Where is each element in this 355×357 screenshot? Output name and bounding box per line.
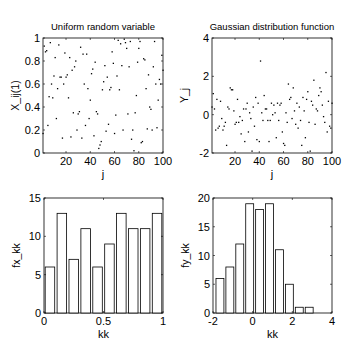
data-point — [92, 68, 93, 69]
data-point — [67, 74, 68, 75]
x-tick-label: 100 — [154, 155, 172, 167]
data-point — [98, 148, 99, 149]
y-tick-label: 1 — [34, 32, 40, 44]
data-point — [297, 127, 298, 128]
data-point — [63, 83, 64, 84]
data-point — [270, 120, 271, 121]
y-axis-label: fy_kk — [179, 243, 191, 268]
histogram-bar — [81, 229, 91, 313]
data-point — [145, 88, 146, 89]
histogram-bar — [305, 307, 313, 313]
histogram-bar — [45, 267, 55, 313]
data-point — [69, 57, 70, 58]
data-point — [132, 129, 133, 130]
histogram-bar — [236, 244, 244, 313]
figure-canvas: 2040608010000.20.40.60.81Uniform random … — [0, 0, 355, 357]
data-point — [237, 99, 238, 100]
data-point — [148, 74, 149, 75]
data-point — [126, 48, 127, 49]
data-point — [248, 131, 249, 132]
data-point — [84, 83, 85, 84]
data-point — [238, 122, 239, 123]
data-point — [304, 110, 305, 111]
data-point — [271, 103, 272, 104]
data-point — [124, 39, 125, 40]
data-point — [276, 137, 277, 138]
data-point — [86, 54, 87, 55]
data-point — [119, 89, 120, 90]
data-point — [46, 50, 47, 51]
data-point — [93, 135, 94, 136]
data-point — [312, 104, 313, 105]
y-tick-label: 0 — [204, 307, 210, 319]
data-point — [265, 108, 266, 109]
data-point — [216, 99, 217, 100]
data-point — [305, 137, 306, 138]
data-point — [142, 141, 143, 142]
x-tick-label: 80 — [133, 155, 145, 167]
histogram-bar — [246, 204, 254, 313]
x-axis-label: j — [270, 168, 273, 180]
data-point — [291, 118, 292, 119]
x-axis-label: j — [101, 168, 104, 180]
data-point — [243, 108, 244, 109]
y-axis-label: fx_kk — [10, 243, 22, 268]
data-point — [294, 110, 295, 111]
y-tick-label: 0.6 — [25, 78, 40, 90]
data-point — [74, 66, 75, 67]
data-point — [256, 139, 257, 140]
y-tick-label: 20 — [198, 192, 210, 204]
data-point — [308, 122, 309, 123]
x-axis-label: kk — [98, 328, 110, 340]
data-point — [128, 66, 129, 67]
data-point — [217, 127, 218, 128]
data-point — [65, 77, 66, 78]
data-point — [211, 106, 212, 107]
histogram-bar — [93, 267, 103, 313]
data-point — [115, 114, 116, 115]
data-point — [153, 66, 154, 67]
data-point — [266, 108, 267, 109]
data-point — [154, 41, 155, 42]
data-point — [250, 118, 251, 119]
data-point — [105, 131, 106, 132]
data-point — [314, 124, 315, 125]
x-tick-label: 2 — [289, 315, 295, 327]
data-point — [99, 144, 100, 145]
data-point — [150, 109, 151, 110]
data-point — [137, 62, 138, 63]
data-point — [324, 122, 325, 123]
data-point — [70, 136, 71, 137]
data-point — [255, 97, 256, 98]
histogram-bar — [226, 267, 234, 313]
data-point — [68, 97, 69, 98]
data-point — [311, 101, 312, 102]
data-point — [328, 101, 329, 102]
data-point — [97, 113, 98, 114]
data-point — [156, 127, 157, 128]
y-axis-label: Y_j — [178, 88, 190, 103]
data-point — [296, 103, 297, 104]
plot-area — [43, 38, 163, 153]
histogram-bar — [266, 204, 274, 313]
data-point — [102, 89, 103, 90]
x-tick-label: 1 — [160, 315, 166, 327]
data-point — [75, 60, 76, 61]
y-tick-label: 4 — [203, 32, 209, 44]
data-point — [260, 60, 261, 61]
data-point — [257, 103, 258, 104]
data-point — [225, 122, 226, 123]
data-point — [236, 122, 237, 123]
data-point — [307, 91, 308, 92]
data-point — [103, 81, 104, 82]
histogram-bar — [275, 250, 283, 313]
data-point — [104, 65, 105, 66]
data-point — [52, 97, 53, 98]
data-point — [111, 51, 112, 52]
data-point — [242, 120, 243, 121]
data-point — [90, 100, 91, 101]
y-tick-label: 0.8 — [25, 55, 40, 67]
data-point — [239, 116, 240, 117]
data-point — [108, 124, 109, 125]
data-point — [323, 116, 324, 117]
